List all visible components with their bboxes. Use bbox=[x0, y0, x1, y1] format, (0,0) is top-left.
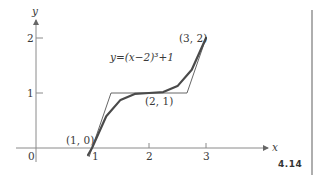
x-tick-label-1: 1 bbox=[92, 150, 99, 162]
x-tick-label-2: 2 bbox=[146, 150, 153, 162]
x-tick-label-0: 0 bbox=[28, 150, 35, 162]
y-tick-label-1: 1 bbox=[27, 87, 34, 99]
point-label-3-2: (3, 2) bbox=[179, 32, 207, 44]
equation-label: y=(x−2)³+1 bbox=[109, 51, 174, 63]
x-axis-label: x bbox=[272, 141, 278, 153]
point-label-1-0: (1, 0) bbox=[66, 134, 94, 146]
cubic-curve-diagram: y x 0 1 2 3 1 2 (1, 0) (2, 1) (3, 2) y=(… bbox=[0, 0, 315, 177]
y-tick-label-2: 2 bbox=[27, 32, 34, 44]
y-axis-label: y bbox=[31, 5, 39, 17]
x-tick-label-3: 3 bbox=[203, 150, 210, 162]
point-label-2-1: (2, 1) bbox=[145, 95, 173, 107]
figure-number: 4.14 bbox=[278, 159, 302, 169]
